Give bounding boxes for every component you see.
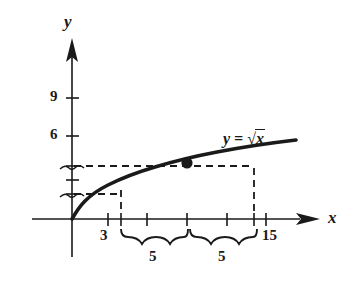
axis-group	[32, 48, 300, 257]
figure-root: y x 9 6 3 15 5 5 y = √x	[0, 0, 358, 295]
graph-canvas	[0, 0, 358, 295]
y-tick-label-9: 9	[50, 88, 58, 105]
equation-lhs: y =	[223, 130, 247, 147]
y-tick-label-6: 6	[50, 126, 58, 143]
x-brace-second	[190, 229, 257, 244]
curve-point-marker	[181, 157, 192, 168]
x-axis-label: x	[328, 208, 337, 228]
x-tick-label-15: 15	[262, 227, 277, 244]
x-brace-label-second: 5	[218, 248, 226, 265]
x-brace-first	[121, 229, 188, 244]
x-brace-label-first: 5	[149, 248, 157, 265]
x-tick-label-3: 3	[100, 227, 108, 244]
sqrt-curve	[72, 140, 296, 219]
curve-equation-label: y = √x	[223, 130, 265, 148]
equation-radicand: x	[255, 129, 265, 147]
y-axis-label: y	[64, 12, 72, 32]
